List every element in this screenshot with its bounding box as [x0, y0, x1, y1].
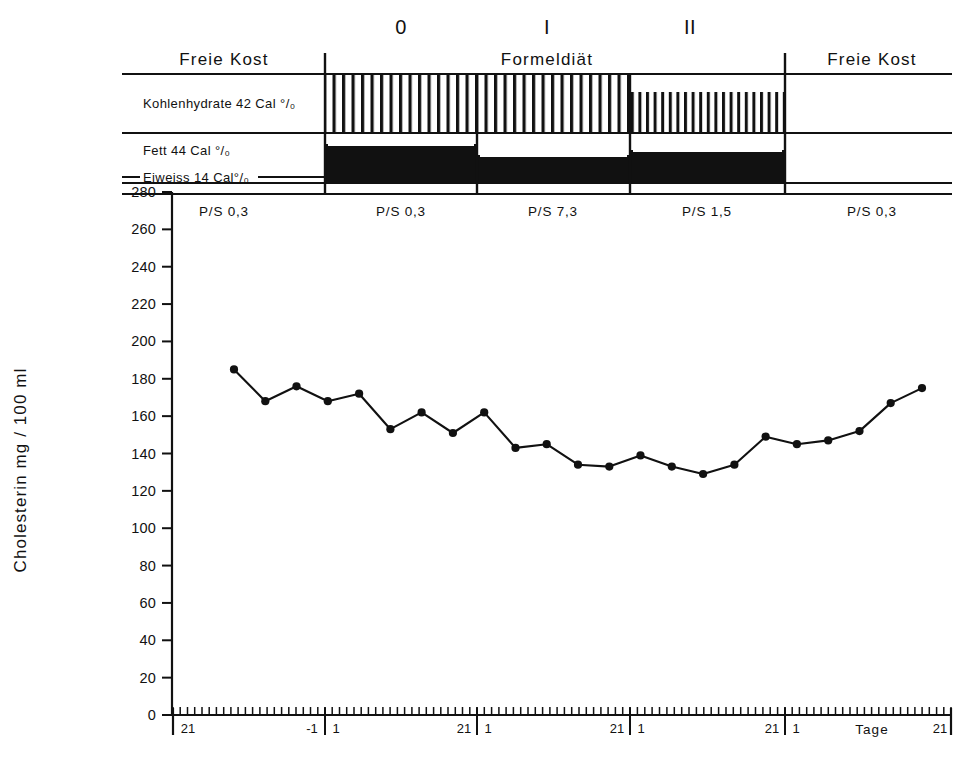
- data-point: [824, 436, 832, 444]
- y-tick-label: 220: [131, 296, 156, 312]
- data-point: [855, 427, 863, 435]
- fat-strip-phase0: [328, 139, 474, 146]
- data-point: [261, 397, 269, 405]
- y-tick-label: 120: [131, 483, 156, 499]
- y-tick-label: 80: [139, 558, 156, 574]
- plot-axes: 020406080100120140160180200220240260280 …: [11, 184, 172, 723]
- phase-roman-0: 0: [395, 16, 407, 38]
- data-point: [324, 397, 332, 405]
- data-point: [511, 444, 519, 452]
- data-point: [418, 408, 426, 416]
- x-tick-label: 21: [610, 721, 624, 736]
- data-point: [918, 384, 926, 392]
- y-tick-label: 20: [139, 670, 156, 686]
- x-axis-title: Tage: [855, 722, 888, 737]
- cholesterol-diet-figure: 0 I II Freie Kost Formeldiät Freie Kost …: [0, 0, 974, 765]
- x-tick-label: 1: [484, 721, 491, 736]
- carbohydrate-block-phase1: [477, 75, 630, 133]
- x-tick-label: 21: [765, 721, 779, 736]
- data-point: [386, 425, 394, 433]
- data-point: [668, 463, 676, 471]
- fat-strip-phase1: [480, 151, 627, 157]
- y-tick-label: 280: [131, 184, 156, 200]
- data-point: [605, 463, 613, 471]
- data-point: [230, 365, 238, 373]
- data-point: [355, 390, 363, 398]
- fat-block-phase1: [477, 155, 630, 183]
- fat-block-phase2: [630, 150, 785, 183]
- x-tick-label: 21: [181, 721, 195, 736]
- y-tick-label: 200: [131, 333, 156, 349]
- phase-name-freiekost-right: Freie Kost: [827, 50, 916, 69]
- x-tick-group: [173, 707, 951, 715]
- x-tick-label: 21: [933, 721, 947, 736]
- ps-ratio-freiekost-left: P/S 0,3: [199, 204, 249, 219]
- ps-ratio-phase0: P/S 0,3: [376, 204, 426, 219]
- ps-ratio-phase2: P/S 1,5: [682, 204, 732, 219]
- data-point: [887, 399, 895, 407]
- x-tick-label: 1: [792, 721, 799, 736]
- cholesterol-line: [234, 369, 922, 474]
- x-tick-label-group: 21-1121121121121: [181, 721, 947, 736]
- composition-label-eiweiss: Eiweiss 14 Cal°/₀: [143, 170, 249, 185]
- carbohydrate-block-phase2: [630, 92, 785, 133]
- data-point: [699, 470, 707, 478]
- fat-strip-phase2: [633, 146, 782, 152]
- fat-block-phase0: [325, 144, 477, 183]
- y-tick-label: 60: [139, 595, 156, 611]
- protein-block-phase2: [630, 183, 785, 194]
- data-point: [636, 451, 644, 459]
- y-tick-label: 260: [131, 221, 156, 237]
- cholesterol-markers: [230, 365, 926, 478]
- phase-roman-II: II: [684, 16, 696, 38]
- ps-ratio-freiekost-right: P/S 0,3: [847, 204, 897, 219]
- y-tick-group: 020406080100120140160180200220240260280: [131, 184, 172, 723]
- y-tick-label: 100: [131, 520, 156, 536]
- data-point: [543, 440, 551, 448]
- protein-block-phase0: [325, 183, 477, 194]
- data-point: [730, 461, 738, 469]
- cholesterol-series: [230, 365, 926, 478]
- y-tick-label: 140: [131, 446, 156, 462]
- y-tick-label: 0: [148, 707, 156, 723]
- x-axis: 21-1121121121121 Tage: [172, 707, 952, 737]
- composition-label-fett: Fett 44 Cal °/₀: [143, 143, 230, 158]
- data-point: [292, 382, 300, 390]
- figure-container: 0 I II Freie Kost Formeldiät Freie Kost …: [0, 0, 974, 765]
- data-point: [762, 433, 770, 441]
- y-axis-title: Cholesterin mg / 100 ml: [11, 368, 30, 573]
- phase-roman-I: I: [544, 16, 550, 38]
- x-tick-label: 21: [457, 721, 471, 736]
- data-point: [449, 429, 457, 437]
- composition-label-kohlenhydrate: Kohlenhydrate 42 Cal °/₀: [143, 96, 295, 111]
- x-tick-label: 1: [637, 721, 644, 736]
- y-tick-label: 40: [139, 632, 156, 648]
- protein-block-phase1: [477, 183, 630, 194]
- carbohydrate-block-phase0: [325, 75, 477, 133]
- data-point: [480, 408, 488, 416]
- x-tick-label: -1: [306, 721, 318, 736]
- diet-composition-table: 0 I II Freie Kost Formeldiät Freie Kost …: [122, 16, 952, 219]
- y-tick-label: 180: [131, 371, 156, 387]
- data-point: [793, 440, 801, 448]
- data-point: [574, 461, 582, 469]
- ps-ratio-phase1: P/S 7,3: [528, 204, 578, 219]
- phase-name-formeldiaet: Formeldiät: [501, 50, 593, 69]
- y-tick-label: 240: [131, 259, 156, 275]
- phase-name-freiekost-left: Freie Kost: [179, 50, 268, 69]
- y-tick-label: 160: [131, 408, 156, 424]
- x-tick-label: 1: [332, 721, 339, 736]
